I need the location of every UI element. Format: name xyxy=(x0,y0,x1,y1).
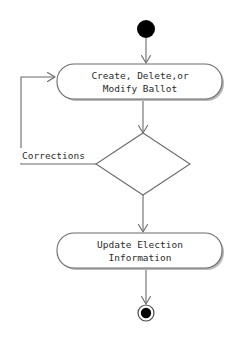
edge-label-corrections: Corrections xyxy=(22,150,85,161)
activity-node-create-ballot[interactable]: Create, Delete,or Modify Ballot xyxy=(57,64,224,101)
activity-node-update-election[interactable]: Update Election Information xyxy=(57,233,224,270)
edge-start-to-create xyxy=(142,38,151,63)
decision-node[interactable] xyxy=(96,133,190,195)
initial-node[interactable] xyxy=(137,20,155,38)
edge-create-to-decision xyxy=(139,99,148,133)
edge-decision-to-update xyxy=(139,195,148,232)
activity-diagram-canvas: Corrections Create, Delete,or Modify Bal… xyxy=(0,0,242,340)
filled-circle-icon[interactable] xyxy=(137,20,155,38)
decision-diamond-shape[interactable] xyxy=(96,133,190,195)
edge-update-to-end xyxy=(142,268,151,304)
activity-label-line-2: Information xyxy=(109,252,172,263)
activity-label-line-1: Update Election xyxy=(97,239,183,250)
activity-label-line-2: Modify Ballot xyxy=(103,83,177,94)
bullseye-inner-circle-icon xyxy=(141,308,151,318)
final-node[interactable] xyxy=(138,305,154,321)
activity-label-line-1: Create, Delete,or xyxy=(91,70,189,81)
